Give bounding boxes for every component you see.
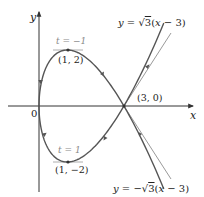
point-3-0 [122, 104, 125, 107]
point-label-intersection: (3, 0) [137, 93, 163, 103]
point-label-bottom: (1, −2) [55, 165, 89, 175]
origin-label: 0 [31, 109, 37, 119]
tangent-equation-lower: y = −√3(x − 3) [113, 184, 189, 194]
param-label-bottom: t = 1 [58, 146, 81, 155]
point-1-2 [66, 48, 69, 51]
x-axis-label: x [190, 110, 196, 121]
direction-arrow-icon [104, 136, 108, 141]
diagram-canvas [0, 0, 204, 197]
point-label-top: (1, 2) [58, 55, 84, 65]
tangent-line-lower [124, 106, 171, 179]
param-label-top: t = −1 [56, 37, 86, 46]
tangent-equation-upper: y = √3(x − 3) [118, 18, 186, 28]
y-axis-label: y [30, 12, 36, 23]
